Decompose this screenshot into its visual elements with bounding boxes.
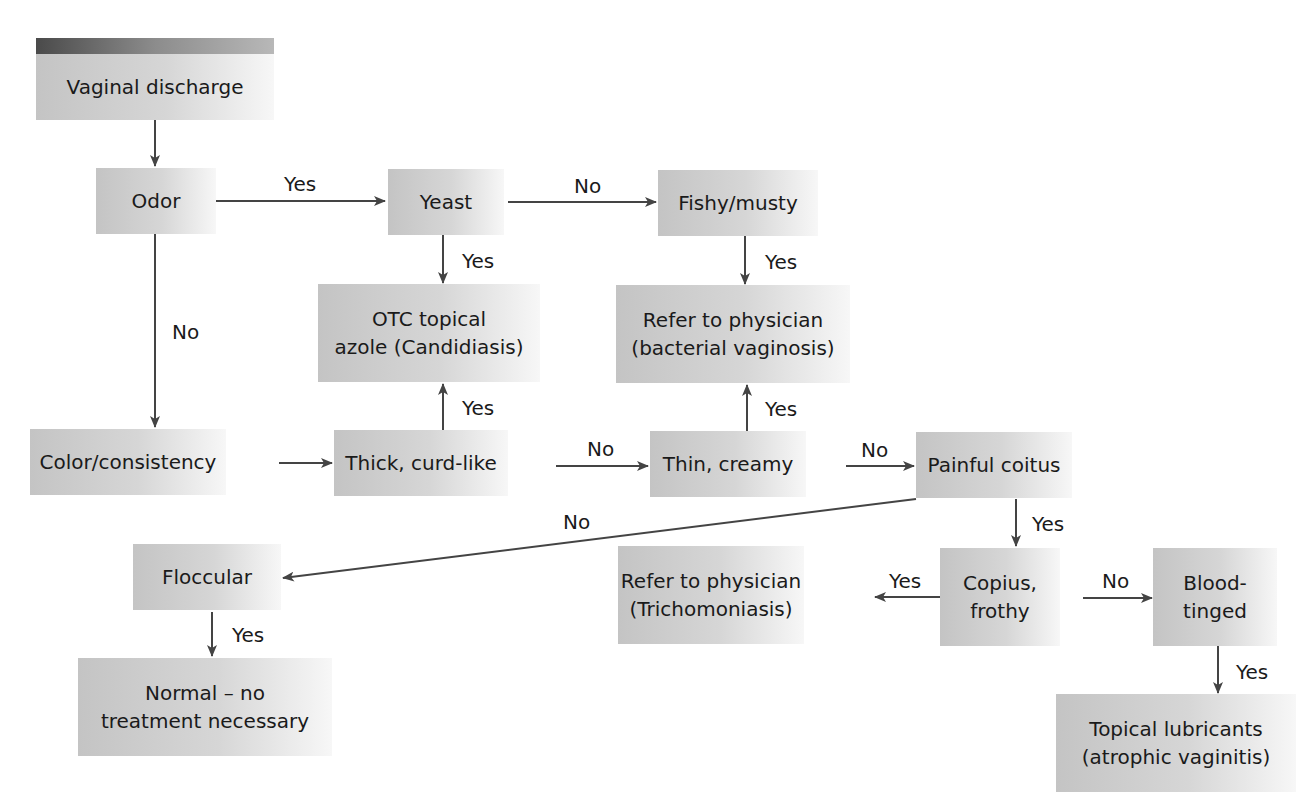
label-fishy-refer: Yes bbox=[765, 250, 797, 274]
label-copius-blood: No bbox=[1102, 569, 1129, 593]
label-thin-painful: No bbox=[861, 438, 888, 462]
label-yeast-otc: Yes bbox=[462, 249, 494, 273]
label-thick-otc: Yes bbox=[462, 396, 494, 420]
arrow-painful-to-floccular bbox=[283, 499, 916, 578]
label-thick-thin: No bbox=[587, 437, 614, 461]
label-painful-floccular: No bbox=[563, 510, 590, 534]
connector-arrows bbox=[0, 0, 1304, 807]
label-yeast-fishy: No bbox=[574, 174, 601, 198]
label-odor-yeast: Yes bbox=[284, 172, 316, 196]
label-copius-refer: Yes bbox=[889, 569, 921, 593]
label-odor-color: No bbox=[172, 320, 199, 344]
label-floccular-normal: Yes bbox=[232, 623, 264, 647]
label-painful-copius: Yes bbox=[1032, 512, 1064, 536]
label-thin-refer: Yes bbox=[765, 397, 797, 421]
label-blood-lubricants: Yes bbox=[1236, 660, 1268, 684]
